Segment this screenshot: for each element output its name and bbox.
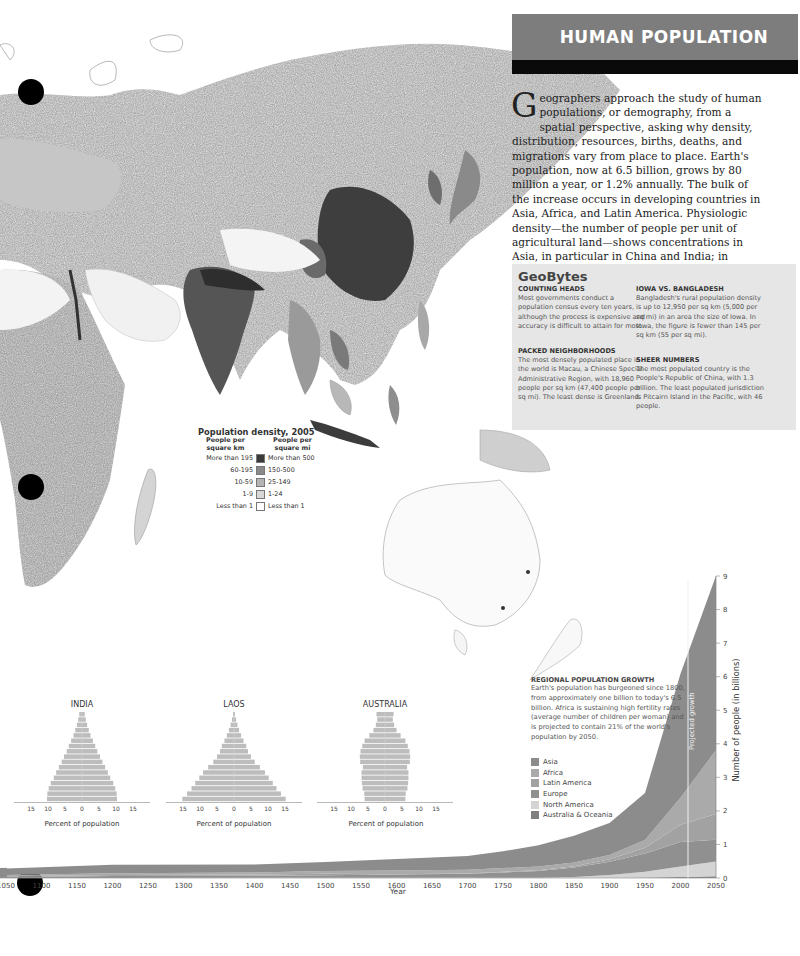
pyramid-tick-label: 10	[44, 805, 52, 812]
x-tick-label: 1250	[139, 882, 157, 890]
x-tick-label: 1800	[530, 882, 548, 890]
pyramid-tick-label: 5	[97, 805, 101, 812]
pyramid-axis-label: Percent of population	[32, 820, 132, 828]
geobytes-text: Bangladesh's rural population density is…	[636, 294, 766, 340]
legend-km: 10-59	[198, 478, 256, 486]
geobytes-heading: IOWA VS. BANGLADESH	[636, 285, 766, 294]
growth-legend-item: North America	[531, 799, 613, 810]
geobytes-text: Most governments conduct a population ce…	[518, 294, 648, 331]
geobytes-title: GeoBytes	[518, 269, 588, 284]
y-tick-label: 8	[723, 606, 727, 614]
map-legend-header: People per square km People per square m…	[198, 437, 348, 452]
legend-label: Latin America	[543, 779, 591, 787]
legend-label: Europe	[543, 790, 568, 798]
pyramid-tick-label: 15	[129, 805, 137, 812]
x-axis-label: Year	[389, 887, 407, 896]
pyramid-tick-label: 10	[264, 805, 272, 812]
pyramid-tick-label: 15	[432, 805, 440, 812]
pyramid-tick-label: 5	[63, 805, 67, 812]
x-tick-label: 1200	[104, 882, 122, 890]
growth-description: REGIONAL POPULATION GROWTH Earth's popul…	[531, 676, 691, 743]
geobytes-text: The most densely populated place in the …	[518, 356, 648, 402]
x-tick-label: 1750	[494, 882, 512, 890]
x-ticks: 1050110011501200125013001350140014501500…	[0, 882, 725, 890]
legend-swatch	[256, 490, 265, 499]
legend-label: North America	[543, 801, 594, 809]
x-tick-label: 1450	[281, 882, 299, 890]
legend-km: 1-9	[198, 490, 256, 498]
legend-row: 60-195 150-500	[198, 464, 348, 476]
x-tick-label: 1550	[352, 882, 370, 890]
y-tick-label: 4	[723, 740, 728, 748]
legend-row: Less than 1 Less than 1	[198, 500, 348, 512]
legend-row: More than 195 More than 500	[198, 452, 348, 464]
x-tick-label: 1900	[601, 882, 619, 890]
y-tick-label: 5	[723, 707, 727, 715]
x-tick-label: 1300	[175, 882, 193, 890]
geobytes-heading: SHEER NUMBERS	[636, 356, 766, 365]
header-band: HUMAN POPULATION	[512, 14, 798, 60]
population-pyramids-chart: 151050510151510505101515105051015	[0, 700, 470, 820]
x-tick-label: 1100	[33, 882, 51, 890]
pyramid-tick-label: 15	[27, 805, 35, 812]
growth-legend-item: Asia	[531, 757, 613, 768]
legend-row: 1-9 1-24	[198, 488, 348, 500]
y-tick-label: 3	[723, 774, 727, 782]
binder-hole	[18, 79, 44, 105]
legend-swatch	[531, 801, 539, 809]
geobytes-heading: COUNTING HEADS	[518, 285, 648, 294]
dropcap: G	[511, 92, 537, 120]
header-bar	[512, 60, 798, 74]
legend-row: 10-59 25-149	[198, 476, 348, 488]
pyramid-tick-label: 10	[196, 805, 204, 812]
x-tick-label: 1050	[0, 882, 15, 890]
pyramid-tick-label: 5	[249, 805, 253, 812]
legend-swatch	[256, 478, 265, 487]
x-tick-label: 1700	[459, 882, 477, 890]
growth-legend-item: Africa	[531, 768, 613, 779]
x-tick-label: 1150	[68, 882, 86, 890]
legend-col-mi: People per square mi	[265, 437, 320, 452]
growth-legend-item: Europe	[531, 789, 613, 800]
legend-swatch	[531, 769, 539, 777]
y-tick-label: 2	[723, 807, 727, 815]
growth-legend: Asia Africa Latin America Europe North A…	[531, 757, 613, 821]
y-ticks: 0123456789	[716, 573, 728, 883]
pyramid-tick-label: 5	[215, 805, 219, 812]
legend-swatch	[531, 811, 539, 819]
pyramid-tick-label: 10	[347, 805, 355, 812]
geobytes-item: IOWA VS. BANGLADESH Bangladesh's rural p…	[636, 285, 766, 340]
legend-mi: 25-149	[265, 478, 291, 486]
map-legend: Population density, 2005 People per squa…	[198, 427, 348, 512]
legend-swatch	[531, 790, 539, 798]
legend-label: Asia	[543, 758, 558, 766]
x-tick-label: 2050	[707, 882, 725, 890]
growth-legend-item: Australia & Oceania	[531, 810, 613, 821]
x-tick-label: 2000	[672, 882, 690, 890]
geobytes-box: GeoBytes COUNTING HEADS Most governments…	[512, 264, 796, 430]
geobytes-item: SHEER NUMBERS The most populated country…	[636, 356, 766, 411]
legend-km: Less than 1	[198, 502, 256, 510]
y-tick-label: 7	[723, 640, 727, 648]
legend-mi: 1-24	[265, 490, 283, 498]
pyramid-tick-label: 0	[232, 805, 236, 812]
growth-text: Earth's population has burgeoned since 1…	[531, 684, 691, 743]
legend-swatch	[531, 758, 539, 766]
legend-swatch	[256, 502, 265, 511]
legend-swatch	[256, 466, 265, 475]
legend-col-km: People per square km	[198, 437, 253, 452]
pyramid-axis-label: Percent of population	[184, 820, 284, 828]
legend-swatch	[256, 454, 265, 463]
pyramid-tick-label: 0	[383, 805, 387, 812]
y-axis-label: Number of people (in billions)	[731, 658, 741, 781]
y-tick-label: 9	[723, 573, 727, 581]
legend-mi: 150-500	[265, 466, 295, 474]
pyramid-tick-label: 15	[330, 805, 338, 812]
section-header: HUMAN POPULATION	[512, 14, 798, 74]
x-tick-label: 1950	[636, 882, 654, 890]
x-tick-label: 1400	[246, 882, 264, 890]
legend-label: Australia & Oceania	[543, 811, 613, 819]
x-tick-label: 1850	[565, 882, 583, 890]
legend-swatch	[531, 779, 539, 787]
y-tick-label: 1	[723, 841, 727, 849]
